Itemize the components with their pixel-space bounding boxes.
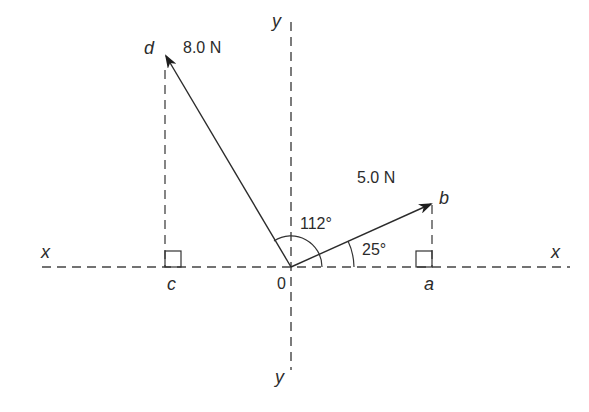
y-axis-top-label: y [272,13,281,29]
vector-d-magnitude: 8.0 N [183,40,221,56]
vector-b-arrow [291,204,431,267]
origin-label: 0 [277,276,286,292]
vector-d-arrow [166,56,291,267]
right-angle-c [165,251,181,267]
vector-b-magnitude: 5.0 N [357,170,395,186]
point-b-label: b [439,190,449,206]
x-axis-right-label: x [551,244,560,260]
vector-diagram-canvas [0,0,589,412]
y-axis-bottom-label: y [275,369,284,385]
angle-arc-25 [348,241,354,267]
angle-25-label: 25° [362,242,386,258]
right-angle-a [416,251,432,267]
x-axis-left-label: x [41,244,50,260]
point-c-label: c [167,276,176,292]
point-a-label: a [424,276,434,292]
point-d-label: d [144,40,154,56]
angle-112-label: 112° [300,216,332,232]
